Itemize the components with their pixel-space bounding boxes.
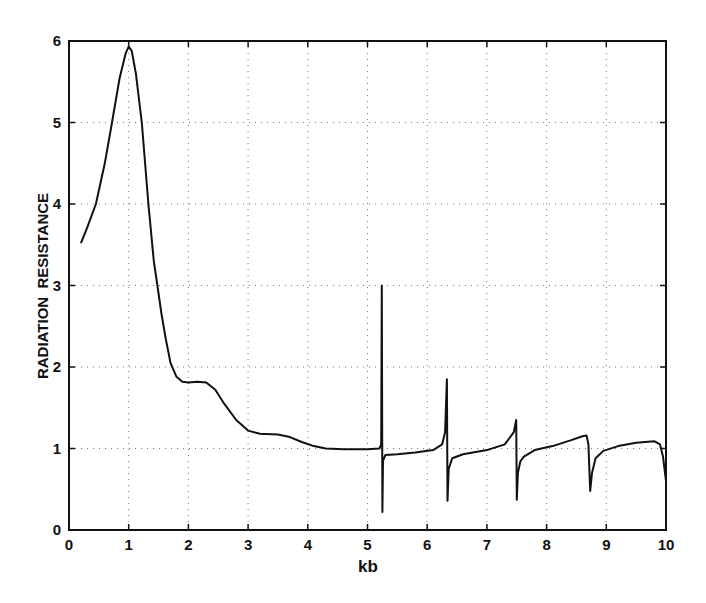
x-tick-label: 4 [304,536,313,553]
axis-ticks [69,41,666,530]
x-tick-label: 5 [363,536,371,553]
x-tick-label: 8 [542,536,550,553]
plot-frame [69,41,666,530]
y-tick-label: 6 [53,32,61,49]
x-axis-label: kb [358,557,378,576]
y-tick-label: 3 [53,277,61,294]
radiation-resistance-chart: 012345678910 0123456 kb RADIATION RESIST… [0,0,706,603]
x-tick-label: 2 [184,536,192,553]
x-tick-labels: 012345678910 [65,536,675,553]
y-axis-label: RADIATION RESISTANCE [34,193,51,379]
x-tick-label: 9 [602,536,610,553]
x-tick-label: 6 [423,536,431,553]
x-tick-label: 7 [483,536,491,553]
y-tick-label: 0 [53,521,61,538]
x-tick-label: 1 [125,536,133,553]
y-tick-label: 2 [53,358,61,375]
x-tick-label: 3 [244,536,252,553]
x-tick-label: 0 [65,536,73,553]
grid-lines [69,41,666,530]
data-series-line [81,47,666,512]
y-tick-label: 4 [53,195,62,212]
y-tick-label: 5 [53,114,61,131]
y-tick-label: 1 [53,440,61,457]
y-tick-labels: 0123456 [53,32,62,538]
x-tick-label: 10 [658,536,675,553]
